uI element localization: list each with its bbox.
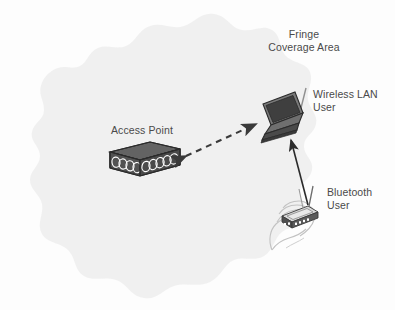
wireless-lan-label-line-1: Wireless LAN	[313, 88, 378, 101]
fringe-coverage-area-label: Fringe Coverage Area	[258, 28, 350, 54]
bluetooth-label-line-1: Bluetooth	[327, 186, 372, 199]
fringe-label-line-2: Coverage Area	[258, 41, 350, 54]
bluetooth-to-wireless-lan-link	[291, 140, 308, 205]
handheld-pda-in-hand-icon	[270, 186, 318, 250]
bluetooth-label-line-2: User	[327, 199, 372, 212]
laptop-icon	[261, 88, 306, 143]
bluetooth-user-label: Bluetooth User	[327, 186, 372, 212]
access-point-label-line-1: Access Point	[111, 124, 173, 137]
wireless-lan-coverage-diagram: Fringe Coverage Area Wireless LAN User B…	[0, 0, 395, 310]
access-point-label: Access Point	[111, 124, 173, 137]
wireless-lan-label-line-2: User	[313, 101, 378, 114]
access-point-to-wireless-lan-link	[186, 124, 256, 156]
fringe-label-line-1: Fringe	[258, 28, 350, 41]
access-point-box-icon	[110, 142, 180, 176]
wireless-lan-user-label: Wireless LAN User	[313, 88, 378, 114]
